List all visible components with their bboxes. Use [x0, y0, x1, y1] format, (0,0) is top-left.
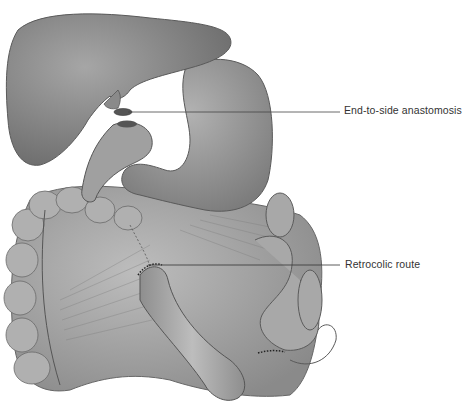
label-end-to-side-anastomosis: End-to-side anastomosis: [344, 104, 462, 116]
label-retrocolic-route: Retrocolic route: [345, 258, 420, 270]
anastomosis-opening: [117, 121, 137, 128]
